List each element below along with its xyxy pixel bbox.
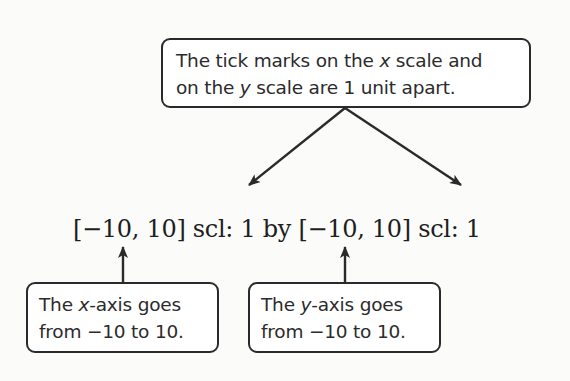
callout-line-2: on the y scale are 1 unit apart.: [176, 74, 529, 101]
y-variable: y: [301, 294, 312, 315]
text: The: [261, 294, 301, 315]
callout-line-1: The tick marks on the x scale and: [176, 47, 529, 74]
y-variable: y: [240, 77, 251, 98]
text: scale are 1 unit apart.: [251, 77, 456, 98]
x-axis-callout: The x-axis goes from −10 to 10.: [26, 282, 219, 353]
text: The: [39, 294, 79, 315]
text: The tick marks on the: [176, 50, 379, 71]
callout-line-1: The y-axis goes: [261, 291, 439, 318]
y-axis-callout: The y-axis goes from −10 to 10.: [248, 282, 441, 353]
arrow-to-y-scale: [345, 108, 461, 185]
text: scale and: [390, 50, 482, 71]
callout-line-2: from −10 to 10.: [261, 318, 439, 345]
callout-line-2: from −10 to 10.: [39, 318, 217, 345]
tick-marks-callout: The tick marks on the x scale and on the…: [161, 38, 531, 108]
text: -axis goes: [311, 294, 403, 315]
text: on the: [176, 77, 240, 98]
arrow-to-x-scale: [249, 108, 345, 185]
viewing-window-notation: [−10, 10] scl: 1 by [−10, 10] scl: 1: [73, 215, 481, 243]
text: -axis goes: [89, 294, 181, 315]
callout-line-1: The x-axis goes: [39, 291, 217, 318]
x-variable: x: [379, 50, 390, 71]
x-variable: x: [79, 294, 90, 315]
